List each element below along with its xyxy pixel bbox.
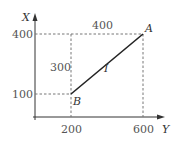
dimension-vertical: 300 <box>50 61 71 74</box>
segment-label: I <box>103 62 109 75</box>
diagram-canvas: X Y 400 100 200 600 400 300 A B I <box>0 0 180 141</box>
tick-200: 200 <box>61 123 82 136</box>
tick-400: 400 <box>12 28 33 41</box>
tick-600: 600 <box>133 123 154 136</box>
horizontal-axis-arrow-icon <box>157 115 165 120</box>
point-a-label: A <box>144 22 153 35</box>
dimension-horizontal: 400 <box>92 19 113 32</box>
point-b-label: B <box>72 95 81 108</box>
vertical-axis-label: X <box>21 11 31 24</box>
horizontal-axis-label: Y <box>162 123 171 136</box>
tick-100: 100 <box>12 88 33 101</box>
vertical-axis-arrow-icon <box>33 13 38 21</box>
